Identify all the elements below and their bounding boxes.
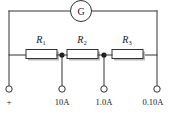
resistor-r1-symbol: R (35, 34, 42, 45)
circuit-diagram-figure: G R1 R2 (0, 0, 171, 126)
resistor-r1-label: R1 (35, 34, 45, 46)
terminal-common-label: + (6, 97, 11, 107)
right-branch-group (143, 11, 157, 86)
resistor-r1: R1 (26, 34, 59, 61)
node-a-group (59, 52, 64, 86)
galvanometer: G (71, 1, 92, 22)
terminal-range-10a-label: 10A (55, 97, 71, 107)
resistor-r3: R3 (112, 34, 145, 61)
resistor-r1-body (26, 50, 57, 59)
galvanometer-label: G (77, 6, 84, 17)
resistor-r3-subscript: 3 (128, 39, 131, 46)
resistor-r3-label: R3 (121, 34, 131, 46)
node-b-group (101, 52, 106, 86)
resistor-r2-symbol: R (76, 34, 83, 45)
terminal-range-1a-label: 1.0A (96, 97, 114, 107)
terminal-range-1a[interactable]: 1.0A (96, 86, 114, 107)
left-branch-group (9, 11, 26, 86)
terminal-range-10a-ring[interactable] (59, 86, 65, 92)
terminal-range-0-1a-label: 0.10A (142, 97, 164, 107)
terminal-range-10a[interactable]: 10A (55, 86, 71, 107)
terminal-range-1a-ring[interactable] (101, 86, 107, 92)
resistor-r3-body (112, 50, 143, 59)
resistor-r1-subscript: 1 (42, 39, 45, 46)
resistor-r2: R2 (67, 34, 100, 61)
terminal-common-ring[interactable] (6, 86, 12, 92)
circuit-schematic-canvas: G R1 R2 (0, 0, 171, 126)
resistor-r2-subscript: 2 (83, 39, 86, 46)
resistor-r2-body (67, 50, 98, 59)
terminal-common[interactable]: + (6, 86, 12, 107)
resistor-r3-symbol: R (121, 34, 128, 45)
terminal-range-0-1a-ring[interactable] (154, 86, 160, 92)
resistor-r2-label: R2 (76, 34, 86, 46)
terminal-range-0-1a[interactable]: 0.10A (142, 86, 164, 107)
